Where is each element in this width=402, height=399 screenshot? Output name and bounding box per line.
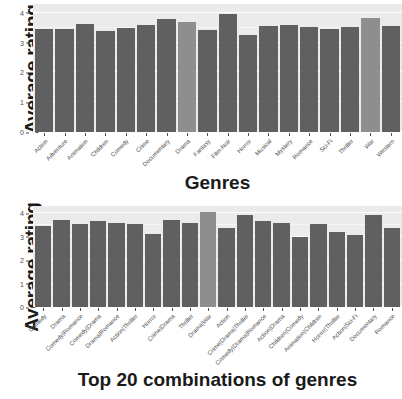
x-axis-tick: Thriller [182,308,198,318]
x-axis-tick-label: Drama [174,138,192,156]
bar [237,215,253,307]
x-axis-tick-mark [80,308,81,311]
bar [90,221,106,307]
x-axis-tick-mark [300,308,301,311]
y-axis-tick-label: 0 [20,129,24,136]
x-axis-tick: Documentary [157,133,175,143]
x-axis-tick-mark [43,308,44,311]
bar [239,35,257,132]
x-axis-tick: Action|Thriller [127,308,143,318]
x-axis-tick-mark [289,133,290,136]
x-axis-tick-mark [392,308,393,311]
x-axis-tick-label: Action [215,313,232,330]
x-axis-tick-label: Horror [236,138,253,155]
bar [55,29,73,132]
x-axis-tick: Children|Comedy [292,308,308,318]
bar [157,19,175,132]
bar [96,31,114,132]
bar [219,14,237,132]
x-axis-tick-mark [282,308,283,311]
bar [182,223,198,307]
x-axis-tick-mark [85,133,86,136]
x-axis-tick: Romance [384,308,400,318]
x-axis-tick: Thriller [341,133,359,143]
bar [300,27,318,132]
x-axis-tick: Action|Drama [273,308,289,318]
x-axis-tick: Animation [76,133,94,143]
x-axis-tick-mark [350,133,351,136]
bar [255,221,271,307]
bar [384,228,400,307]
bar [76,24,94,132]
x-axis-tick-mark [318,308,319,311]
x-axis-tick-mark [355,308,356,311]
bar [382,26,400,132]
x-axis-tick-mark [44,133,45,136]
x-axis-tick: Western [382,133,400,143]
x-axis-tick-mark [207,133,208,136]
y-axis-tick-label: 0 [20,304,24,311]
x-axis-tick-mark [153,308,154,311]
bar [198,30,216,132]
x-axis-tick: Fantasy [198,133,216,143]
x-axis-tick: Comedy|Drama|Romance [255,308,271,318]
bar [259,26,277,132]
bar [347,235,363,307]
y-axis-ticks-bottom: 01234 [0,206,30,307]
bar [53,220,69,307]
bar [163,220,179,307]
x-axis-tick: Adventure [55,133,73,143]
y-axis-tick-label: 4 [20,9,24,16]
x-axis-tick-mark [245,308,246,311]
x-axis-ticks-bottom: ComedyDramaComedy|RomanceComedy|DramaDra… [33,308,402,318]
x-axis-tick-mark [263,308,264,311]
x-axis-ticks-top: ActionAdventureAnimationChildrenComedyCr… [33,133,402,143]
x-axis-tick: Drama [178,133,196,143]
y-axis-tick-label: 2 [20,257,24,264]
x-axis-tick: Sci-Fi [320,133,338,143]
x-axis-title-bottom: Top 20 combinations of genres [33,369,402,391]
x-axis-tick: Documentary [365,308,381,318]
x-axis-tick: Horror [145,308,161,318]
x-axis-tick: Horror [239,133,257,143]
bar [273,223,289,307]
x-axis-tick: Crime|Drama [163,308,179,318]
x-axis-tick-mark [126,133,127,136]
x-axis-tick: Animation|Children [310,308,326,318]
x-axis-tick: Drama|War [200,308,216,318]
bar-series-bottom [33,206,402,307]
genre-combinations-bar-chart-panel: Average rating 01234 ComedyDramaComedy|R… [0,196,402,399]
x-axis-tick-mark [373,308,374,311]
x-axis-tick-mark [98,308,99,311]
bar [218,228,234,307]
bar [127,224,143,307]
y-axis-tick-label: 4 [20,210,24,217]
x-axis-tick-mark [208,308,209,311]
x-axis-title-top: Genres [33,172,402,194]
y-axis-tick-label: 3 [20,39,24,46]
x-axis-tick: Children [96,133,114,143]
x-axis-tick-mark [172,308,173,311]
x-axis-tick: War [361,133,379,143]
bar [200,212,216,307]
x-axis-tick-mark [370,133,371,136]
x-axis-tick: Action [35,133,53,143]
x-axis-tick-mark [117,308,118,311]
plot-area-top [33,4,402,132]
x-axis-tick-mark [248,133,249,136]
bar [72,224,88,307]
x-axis-tick: Comedy|Romance [72,308,88,318]
bar [117,28,135,132]
x-axis-tick-mark [62,308,63,311]
genres-bar-chart-panel: Average rating 01234 ActionAdventureAnim… [0,0,402,196]
two-panel-bar-chart-figure: Average rating 01234 ActionAdventureAnim… [0,0,402,399]
y-axis-ticks-top: 01234 [0,4,30,132]
x-axis-tick-mark [391,133,392,136]
x-axis-tick-label: Action [32,138,49,155]
x-axis-tick: Drama [53,308,69,318]
x-axis-tick-mark [167,133,168,136]
y-axis-tick-label: 1 [20,99,24,106]
x-axis-tick-mark [330,133,331,136]
x-axis-tick-mark [65,133,66,136]
x-axis-tick-mark [337,308,338,311]
